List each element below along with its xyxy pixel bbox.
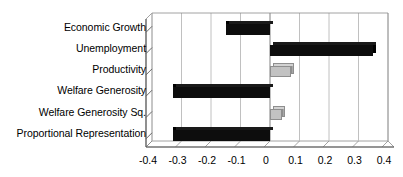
x-tick-label: -0.2 xyxy=(198,154,216,166)
x-tick-label: 0.1 xyxy=(288,154,303,166)
x-tick-label: -0.3 xyxy=(168,154,186,166)
x-axis-tick-labels: -0.4 -0.3 -0.2 -0.1 0 0.1 0.2 0.3 0.4 xyxy=(0,0,403,177)
x-tick-label: 0.3 xyxy=(347,154,362,166)
x-tick-label: -0.1 xyxy=(227,154,245,166)
x-tick-label: 0 xyxy=(263,154,269,166)
bar-chart: Economic Growth Unemployment Productivit… xyxy=(0,0,403,177)
x-tick-label: 0.2 xyxy=(318,154,333,166)
x-tick-label: -0.4 xyxy=(139,154,157,166)
x-tick-label: 0.4 xyxy=(377,154,392,166)
